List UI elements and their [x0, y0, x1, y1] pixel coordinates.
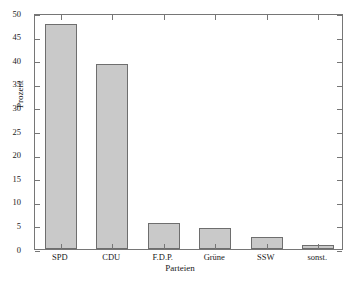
y-tick-mark: [35, 15, 40, 16]
x-tick-mark: [61, 244, 62, 249]
y-tick-label: 15: [13, 175, 22, 184]
bar-spd: [45, 24, 77, 249]
y-tick-label: 10: [13, 198, 22, 207]
y-tick-mark-right: [337, 133, 342, 134]
y-tick-mark-right: [337, 180, 342, 181]
y-tick-mark-right: [337, 251, 342, 252]
x-tick-mark: [318, 244, 319, 249]
y-tick-mark: [35, 251, 40, 252]
bar-cdu: [96, 64, 128, 249]
x-tick-mark: [267, 244, 268, 249]
y-tick-label: 35: [13, 80, 22, 89]
y-tick-mark-right: [337, 109, 342, 110]
y-tick-label: 40: [13, 57, 22, 66]
y-tick-label: 0: [17, 246, 21, 255]
y-tick-mark: [35, 109, 40, 110]
x-tick-label-f-d-p: F.D.P.: [153, 252, 173, 262]
y-tick-mark: [35, 39, 40, 40]
x-tick-mark-top: [112, 15, 113, 20]
y-tick-label: 50: [13, 10, 22, 19]
y-tick-label: 25: [13, 128, 22, 137]
y-tick-mark-right: [337, 39, 342, 40]
x-tick-mark-top: [164, 15, 165, 20]
x-tick-mark: [215, 244, 216, 249]
x-tick-mark-top: [318, 15, 319, 20]
y-tick-mark: [35, 133, 40, 134]
x-axis-title: Parteien: [0, 263, 360, 274]
x-tick-mark-top: [215, 15, 216, 20]
y-tick-label: 45: [13, 33, 22, 42]
x-tick-label-ssw: SSW: [257, 252, 274, 262]
y-tick-label: 5: [17, 222, 21, 231]
y-tick-mark-right: [337, 15, 342, 16]
y-tick-mark-right: [337, 62, 342, 63]
y-tick-mark-right: [337, 227, 342, 228]
figure-canvas: Prozent Parteien 05101520253035404550SPD…: [0, 0, 360, 286]
x-tick-label-spd: SPD: [52, 252, 68, 262]
x-tick-label-cdu: CDU: [102, 252, 120, 262]
y-tick-mark-right: [337, 157, 342, 158]
y-tick-label: 30: [13, 104, 22, 113]
plot-area: [35, 15, 342, 249]
y-tick-mark: [35, 180, 40, 181]
y-tick-mark: [35, 227, 40, 228]
plot-frame: [34, 14, 343, 250]
y-tick-mark: [35, 204, 40, 205]
y-tick-mark-right: [337, 204, 342, 205]
y-tick-mark: [35, 62, 40, 63]
x-tick-label-sonst: sonst.: [307, 252, 327, 262]
y-tick-mark: [35, 86, 40, 87]
x-tick-mark-top: [61, 15, 62, 20]
y-tick-mark-right: [337, 86, 342, 87]
x-tick-mark: [112, 244, 113, 249]
x-tick-label-gr-ne: Grüne: [204, 252, 225, 262]
y-tick-label: 20: [13, 151, 22, 160]
y-tick-mark: [35, 157, 40, 158]
x-tick-mark: [164, 244, 165, 249]
x-tick-mark-top: [267, 15, 268, 20]
